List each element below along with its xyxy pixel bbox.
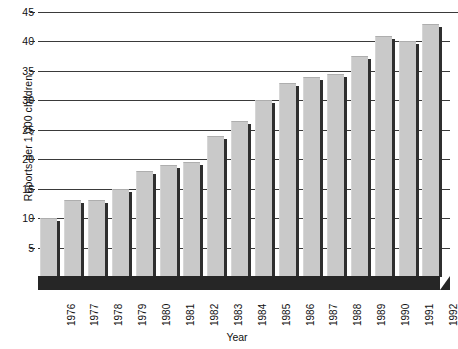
bar-shadow-1990 [392, 39, 395, 277]
y-tick-dash-5 [30, 248, 35, 249]
bar-1977 [64, 200, 81, 277]
bar-shadow-1985 [272, 103, 275, 277]
bar-shadow-1987 [320, 80, 323, 277]
bar-1981 [160, 165, 177, 277]
bar-1979 [112, 189, 129, 277]
bar-shadow-1978 [105, 203, 108, 277]
bar-1987 [303, 77, 320, 277]
x-tick-1981: 1981 [172, 275, 183, 292]
bar-1985 [255, 100, 272, 277]
x-tick-1978: 1978 [100, 275, 111, 292]
x-tick-label: 1979 [137, 304, 148, 326]
bar-shadow-1976 [57, 221, 60, 277]
x-tick-label: 1977 [89, 304, 100, 326]
bar-1990 [375, 36, 392, 277]
x-tick-label: 1988 [352, 304, 363, 326]
bar-1978 [88, 200, 105, 277]
bar-chart: Reports per 1,000 children 5101520253035… [0, 0, 458, 349]
x-tick-label: 1986 [305, 304, 316, 326]
x-axis-tick-labels: 1976197719781979198019811982198319841985… [38, 292, 450, 328]
bar-1982 [183, 162, 200, 277]
x-tick-1988: 1988 [339, 275, 350, 292]
bar-shadow-1981 [177, 168, 180, 277]
x-tick-1992: 1992 [435, 275, 446, 292]
y-tick-dash-15 [30, 189, 35, 190]
x-tick-label: 1976 [66, 304, 77, 326]
bar-1984 [231, 121, 248, 277]
bar-shadow-1992 [439, 27, 442, 277]
bar-shadow-1982 [200, 165, 203, 277]
x-tick-1986: 1986 [292, 275, 303, 292]
y-tick-dash-35 [30, 71, 35, 72]
x-tick-1985: 1985 [268, 275, 279, 292]
x-tick-1977: 1977 [76, 275, 87, 292]
bar-1976 [40, 218, 57, 277]
x-tick-1983: 1983 [220, 275, 231, 292]
x-tick-1980: 1980 [148, 275, 159, 292]
x-tick-label: 1990 [400, 304, 411, 326]
x-tick-label: 1980 [161, 304, 172, 326]
bar-shadow-1984 [248, 124, 251, 277]
bar-shadow-1980 [153, 174, 156, 277]
x-tick-1989: 1989 [363, 275, 374, 292]
y-tick-dash-40 [30, 41, 35, 42]
x-tick-1982: 1982 [196, 275, 207, 292]
x-tick-label: 1981 [185, 304, 196, 326]
bar-shadow-1977 [81, 203, 84, 277]
bar-1992 [422, 24, 439, 277]
y-tick-dash-30 [30, 100, 35, 101]
bar-shadow-1988 [344, 77, 347, 277]
bar-1988 [327, 74, 344, 277]
bar-1983 [207, 136, 224, 277]
x-tick-label: 1983 [233, 304, 244, 326]
y-tick-dash-20 [30, 159, 35, 160]
x-tick-label: 1978 [113, 304, 124, 326]
bar-shadow-1991 [416, 44, 419, 277]
x-tick-label: 1987 [328, 304, 339, 326]
y-axis-tick-labels: 51015202530354045 [8, 0, 34, 290]
x-tick-label: 1992 [448, 304, 458, 326]
bar-1991 [399, 41, 416, 277]
baseplate-front [38, 276, 440, 290]
x-tick-label: 1984 [257, 304, 268, 326]
y-tick-dash-45 [30, 12, 35, 13]
y-tick-dash-25 [30, 130, 35, 131]
x-tick-1990: 1990 [387, 275, 398, 292]
x-tick-1991: 1991 [411, 275, 422, 292]
x-tick-label: 1985 [281, 304, 292, 326]
bar-shadow-1979 [129, 192, 132, 277]
bar-series [38, 12, 450, 277]
x-axis-label: Year [0, 331, 458, 343]
bar-1989 [351, 56, 368, 277]
bar-shadow-1989 [368, 59, 371, 277]
x-tick-1979: 1979 [124, 275, 135, 292]
x-tick-label: 1982 [209, 304, 220, 326]
bar-shadow-1986 [296, 86, 299, 277]
x-tick-label: 1991 [424, 304, 435, 326]
bar-1986 [279, 83, 296, 277]
x-tick-1984: 1984 [244, 275, 255, 292]
plot-area [38, 12, 450, 277]
y-tick-dash-10 [30, 218, 35, 219]
x-tick-1976: 1976 [53, 275, 64, 292]
x-tick-1987: 1987 [315, 275, 326, 292]
bar-1980 [136, 171, 153, 277]
x-tick-label: 1989 [376, 304, 387, 326]
bar-shadow-1983 [224, 139, 227, 277]
